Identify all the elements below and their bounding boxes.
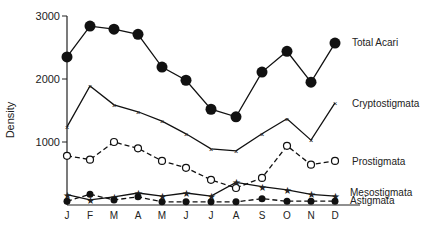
filled-circle-marker: [332, 198, 339, 205]
x-tick-label: J: [65, 210, 70, 221]
series-group: ××××××××××××★★★★★★★★★★★★: [62, 21, 341, 206]
series-label: Prostigmata: [352, 156, 406, 167]
filled-circle-marker: [259, 195, 266, 202]
y-tick-label: 3000: [36, 10, 60, 22]
filled-circle-marker: [306, 77, 317, 88]
x-tick-label: A: [233, 210, 240, 221]
y-tick-label: 1000: [36, 136, 60, 148]
open-circle-marker: [64, 152, 71, 159]
star-marker: ★: [258, 182, 267, 193]
x-marker: ×: [88, 82, 93, 91]
filled-circle-marker: [109, 24, 120, 35]
open-circle-marker: [332, 157, 339, 164]
x-tick-label: D: [331, 210, 338, 221]
x-marker: ×: [309, 136, 314, 145]
filled-circle-marker: [181, 75, 192, 86]
x-tick-label: N: [307, 210, 314, 221]
y-tick-label: 2000: [36, 73, 60, 85]
x-marker: ×: [333, 99, 338, 108]
x-tick-label: A: [135, 210, 142, 221]
x-axis: JFMAMJJASOND: [65, 205, 361, 221]
open-circle-marker: [135, 145, 142, 152]
x-tick-label: M: [158, 210, 166, 221]
filled-circle-marker: [257, 67, 268, 78]
filled-circle-marker: [85, 21, 96, 32]
filled-circle-marker: [284, 198, 291, 205]
open-circle-marker: [87, 156, 94, 163]
x-marker: ×: [285, 115, 290, 124]
x-marker: ×: [260, 130, 265, 139]
density-line-chart: 100020003000 JFMAMJJASOND Density ××××××…: [0, 0, 430, 230]
filled-circle-marker: [308, 198, 315, 205]
filled-circle-marker: [233, 198, 240, 205]
x-tick-label: S: [259, 210, 266, 221]
x-marker: ×: [209, 145, 214, 154]
x-marker: ×: [234, 147, 239, 156]
open-circle-marker: [308, 161, 315, 168]
y-axis: 100020003000: [36, 10, 67, 205]
x-marker: ×: [184, 130, 189, 139]
filled-circle-marker: [111, 196, 118, 203]
filled-circle-marker: [330, 38, 341, 49]
open-circle-marker: [159, 157, 166, 164]
filled-circle-marker: [157, 62, 168, 73]
series-total-acari: [62, 21, 341, 123]
open-circle-marker: [208, 176, 215, 183]
x-marker: ×: [136, 108, 141, 117]
series-line: [67, 26, 335, 117]
filled-circle-marker: [87, 191, 94, 198]
star-marker: ★: [232, 177, 241, 188]
filled-circle-marker: [231, 111, 242, 122]
series-label: Cryptostigmata: [352, 98, 420, 109]
filled-circle-marker: [133, 29, 144, 40]
series-label: Astigmata: [350, 195, 395, 206]
star-marker: ★: [182, 188, 191, 199]
series-line: [67, 182, 335, 200]
series-cryptostigmata: ××××××××××××: [65, 82, 338, 156]
series-prostigmata: [64, 139, 339, 192]
legend-labels: Total AcariCryptostigmataProstigmataMeso…: [350, 37, 420, 206]
x-marker: ×: [65, 123, 70, 132]
y-axis-label: Density: [4, 101, 16, 138]
filled-circle-marker: [62, 51, 73, 62]
filled-circle-marker: [208, 198, 215, 205]
filled-circle-marker: [64, 198, 71, 205]
x-marker: ×: [112, 101, 117, 110]
open-circle-marker: [259, 174, 266, 181]
open-circle-marker: [111, 139, 118, 146]
x-tick-label: J: [184, 210, 189, 221]
filled-circle-marker: [206, 104, 217, 115]
star-marker: ★: [283, 185, 292, 196]
series-label: Total Acari: [352, 37, 398, 48]
series-line: [67, 142, 335, 188]
filled-circle-marker: [282, 46, 293, 57]
open-circle-marker: [183, 164, 190, 171]
filled-circle-marker: [159, 198, 166, 205]
x-tick-label: O: [283, 210, 291, 221]
filled-circle-marker: [183, 198, 190, 205]
x-marker: ×: [160, 117, 165, 126]
x-tick-label: J: [209, 210, 214, 221]
filled-circle-marker: [135, 193, 142, 200]
open-circle-marker: [284, 142, 291, 149]
x-tick-label: F: [87, 210, 93, 221]
x-tick-label: M: [110, 210, 118, 221]
series-line: [67, 86, 335, 151]
